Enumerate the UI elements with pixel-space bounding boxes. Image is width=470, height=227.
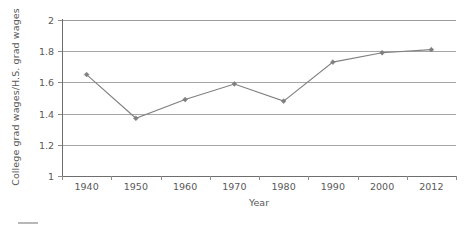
data-point-marker (232, 82, 237, 87)
x-axis-tick-label: 1960 (173, 181, 197, 192)
y-axis-tick-label: 1.2 (26, 139, 58, 150)
line-chart: College grad wages/H.S. grad wages 11.21… (0, 0, 470, 227)
y-axis-tick-labels: 11.21.41.61.82 (26, 0, 58, 227)
x-axis-tick-label: 1950 (124, 181, 148, 192)
y-axis-tick-label: 1.8 (26, 46, 58, 57)
plot-area (62, 20, 456, 176)
x-axis-tick-label: 1940 (75, 181, 99, 192)
y-axis-title: College grad wages/H.S. grad wages (4, 2, 26, 192)
x-axis-tick (407, 176, 408, 180)
x-axis-tick (308, 176, 309, 180)
x-axis-tick (456, 176, 457, 180)
series-line-group (62, 20, 456, 176)
y-axis-tick-label: 1.6 (26, 77, 58, 88)
data-point-marker (183, 97, 188, 102)
y-axis-line (62, 19, 63, 177)
y-axis-tick-label: 2 (26, 15, 58, 26)
x-axis-tick-label: 1970 (222, 181, 246, 192)
x-axis-tick-label: 2012 (419, 181, 443, 192)
y-axis-tick-label: 1 (26, 171, 58, 182)
y-axis-tick-label: 1.4 (26, 108, 58, 119)
x-axis-tick (111, 176, 112, 180)
x-axis-tick-label: 2000 (370, 181, 394, 192)
x-axis-tick (358, 176, 359, 180)
x-axis-tick-label: 1980 (272, 181, 296, 192)
series-markers (84, 47, 434, 120)
x-axis-tick (259, 176, 260, 180)
series-line (87, 50, 432, 119)
x-axis-tick (210, 176, 211, 180)
x-axis-tick (161, 176, 162, 180)
x-axis-tick-label: 1990 (321, 181, 345, 192)
data-point-marker (429, 47, 434, 52)
x-axis-title: Year (62, 197, 456, 208)
legend-line-swatch (18, 222, 38, 224)
data-point-marker (380, 50, 385, 55)
x-axis-tick (62, 176, 63, 180)
x-axis-tick-labels: 19401950196019701980199020002012 (62, 181, 456, 195)
